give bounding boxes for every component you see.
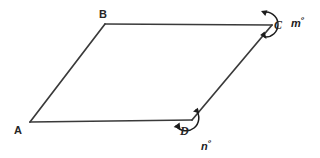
vertex-label-d: D <box>180 125 189 137</box>
parallelogram-outline <box>30 24 272 122</box>
parallelogram-diagram <box>0 0 320 158</box>
angle-label-n: nº <box>201 139 211 152</box>
degree-symbol-icon: º <box>208 138 211 147</box>
edge-b-c <box>105 24 272 25</box>
angle-arc-c-arrowhead-upper <box>261 10 268 16</box>
vertex-label-b: B <box>99 9 107 20</box>
vertex-label-c: C <box>274 19 282 31</box>
angle-label-n-variable: n <box>201 140 208 152</box>
vertex-label-a: A <box>14 125 22 136</box>
geometry-figure: A B C D mº nº <box>0 0 320 158</box>
edge-d-a <box>30 120 192 122</box>
angle-label-m: mº <box>291 16 304 29</box>
edge-c-d <box>192 25 272 120</box>
angle-arc-d-arrowhead-upper <box>193 108 199 113</box>
angle-label-m-variable: m <box>291 17 301 29</box>
edge-a-b <box>30 24 105 122</box>
degree-symbol-icon: º <box>301 15 304 24</box>
